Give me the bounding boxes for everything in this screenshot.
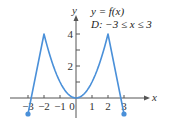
y-axis-label: y bbox=[71, 4, 77, 16]
svg-text:1: 1 bbox=[89, 100, 95, 112]
function-plot: −3−2−10123 24 x y y = f(x) D: −3 ≤ x ≤ 3 bbox=[0, 0, 170, 123]
domain-annotation: D: −3 ≤ x ≤ 3 bbox=[90, 18, 152, 30]
function-annotation: y = f(x) bbox=[90, 5, 124, 18]
svg-text:0: 0 bbox=[69, 100, 75, 112]
svg-text:−1: −1 bbox=[54, 100, 66, 112]
endpoint-dot bbox=[121, 111, 126, 116]
svg-text:2: 2 bbox=[105, 100, 111, 112]
svg-text:−2: −2 bbox=[38, 100, 50, 112]
x-axis-label: x bbox=[151, 91, 157, 103]
endpoint-dot bbox=[25, 111, 30, 116]
y-ticks: 24 bbox=[68, 28, 81, 82]
x-axis-arrow-icon bbox=[144, 96, 150, 101]
svg-text:2: 2 bbox=[68, 60, 74, 72]
svg-text:4: 4 bbox=[68, 28, 74, 40]
